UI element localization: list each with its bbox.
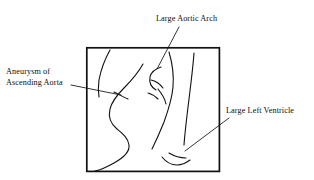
- annotation-label-left-ventricle: Large Left Ventricle: [226, 106, 294, 116]
- annotation-label-aortic-arch: Large Aortic Arch: [156, 14, 217, 24]
- right-chest-edge-stroke: [184, 53, 194, 145]
- image-border: [87, 48, 220, 172]
- left-heart-border-stroke: [95, 64, 143, 171]
- figure-container: Large Aortic Arch Aneurysm of Ascending …: [0, 0, 314, 180]
- annotation-label-aneurysm-line-1: Aneurysm of: [6, 67, 63, 78]
- pulmonary-arc-stroke: [148, 93, 158, 99]
- ascending-aorta-stroke: [98, 50, 110, 97]
- annotation-label-aortic-arch-line-1: Large Aortic Arch: [156, 14, 217, 24]
- pulmonary-segment-stroke: [158, 89, 166, 104]
- annotation-label-left-ventricle-line-1: Large Left Ventricle: [226, 106, 294, 116]
- annotation-label-aneurysm: Aneurysm of Ascending Aorta: [6, 67, 63, 88]
- right-heart-border-stroke: [152, 52, 173, 149]
- annotation-label-aneurysm-line-2: Ascending Aorta: [6, 78, 63, 89]
- aortic-knob-stroke: [150, 67, 161, 90]
- leader-line-left-ventricle: [185, 118, 229, 151]
- anatomy-strokes: [95, 50, 194, 171]
- line-drawing-canvas: [0, 0, 314, 180]
- leader-line-aneurysm: [71, 85, 121, 95]
- leader-lines: [71, 27, 229, 151]
- diaphragm-stroke: [169, 153, 186, 158]
